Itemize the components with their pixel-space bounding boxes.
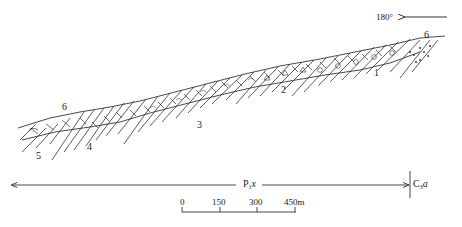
layer-label-1: 1	[374, 68, 379, 78]
snail-fossil-left-icon: 6	[62, 102, 67, 112]
formation-extent-arrow	[12, 171, 410, 198]
scale-tick-0: 0	[180, 197, 185, 207]
scale-tick-150: 150	[212, 197, 226, 207]
formation-label-left: P1x	[243, 179, 256, 192]
layer-label-5: 5	[36, 151, 41, 161]
layer-label-4: 4	[87, 142, 92, 152]
cross-section-drawing	[0, 0, 462, 227]
snail-fossil-right-icon: 6	[424, 30, 429, 40]
topographic-profile	[18, 36, 445, 140]
bedding-lines	[20, 39, 438, 160]
scale-tick-450m: 450m	[284, 197, 305, 207]
formation-label-right: C3a	[413, 179, 428, 192]
layer-label-3: 3	[197, 120, 202, 130]
scale-tick-300: 300	[249, 197, 263, 207]
scale-bar	[182, 207, 296, 212]
oolite-symbols-layer-1	[318, 51, 395, 73]
bed-cross-ticks	[30, 46, 396, 134]
layer-label-2: 2	[281, 85, 286, 95]
orientation-label: 180°	[376, 12, 393, 22]
